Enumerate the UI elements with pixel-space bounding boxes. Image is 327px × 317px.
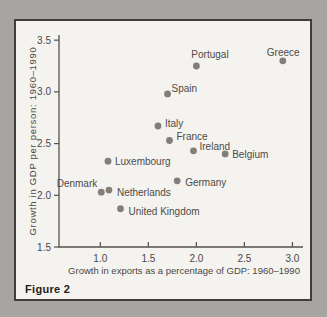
data-point-label-netherlands: Netherlands bbox=[117, 187, 171, 198]
y-tick-label: 3.0 bbox=[37, 86, 51, 97]
x-tick-label: 2.5 bbox=[237, 253, 251, 264]
data-point-portugal bbox=[193, 63, 200, 70]
data-point-spain bbox=[164, 91, 171, 98]
y-axis-title: Growth in GDP per person: 1960–1990 bbox=[27, 46, 38, 235]
data-point-italy bbox=[155, 123, 162, 130]
data-point-united-kingdom bbox=[117, 205, 124, 212]
data-point-luxembourg bbox=[105, 158, 112, 165]
y-tick-label: 3.5 bbox=[37, 35, 51, 46]
data-point-label-ireland: Ireland bbox=[199, 141, 230, 152]
x-tick-label: 1.0 bbox=[93, 253, 107, 264]
page-background: 1.01.52.02.53.01.52.02.53.03.5Growth in … bbox=[0, 0, 327, 317]
data-point-france bbox=[166, 137, 173, 144]
y-tick-label: 2.5 bbox=[37, 138, 51, 149]
y-tick-label: 2.0 bbox=[37, 190, 51, 201]
scatter-chart: 1.01.52.02.53.01.52.02.53.03.5Growth in … bbox=[16, 21, 310, 299]
data-point-label-belgium: Belgium bbox=[232, 149, 268, 160]
data-point-label-germany: Germany bbox=[185, 177, 226, 188]
data-point-label-spain: Spain bbox=[172, 83, 198, 94]
figure-card: 1.01.52.02.53.01.52.02.53.03.5Growth in … bbox=[14, 19, 312, 301]
data-point-label-portugal: Portugal bbox=[191, 49, 228, 60]
x-tick-label: 2.0 bbox=[189, 253, 203, 264]
data-point-label-greece: Greece bbox=[267, 47, 300, 58]
x-tick-label: 1.5 bbox=[141, 253, 155, 264]
x-axis-title: Growth in exports as a percentage of GDP… bbox=[68, 265, 300, 276]
data-point-netherlands bbox=[106, 187, 113, 194]
data-point-label-denmark: Denmark bbox=[57, 178, 99, 189]
data-point-label-luxembourg: Luxembourg bbox=[115, 156, 171, 167]
x-tick-label: 3.0 bbox=[285, 253, 299, 264]
data-point-greece bbox=[279, 57, 286, 64]
data-point-denmark bbox=[98, 189, 105, 196]
data-point-germany bbox=[174, 177, 181, 184]
data-point-belgium bbox=[222, 151, 229, 158]
y-tick-label: 1.5 bbox=[37, 242, 51, 253]
data-point-label-united-kingdom: United Kingdom bbox=[128, 206, 199, 217]
data-point-ireland bbox=[190, 147, 197, 154]
data-point-label-italy: Italy bbox=[165, 118, 183, 129]
figure-caption: Figure 2 bbox=[25, 283, 70, 295]
